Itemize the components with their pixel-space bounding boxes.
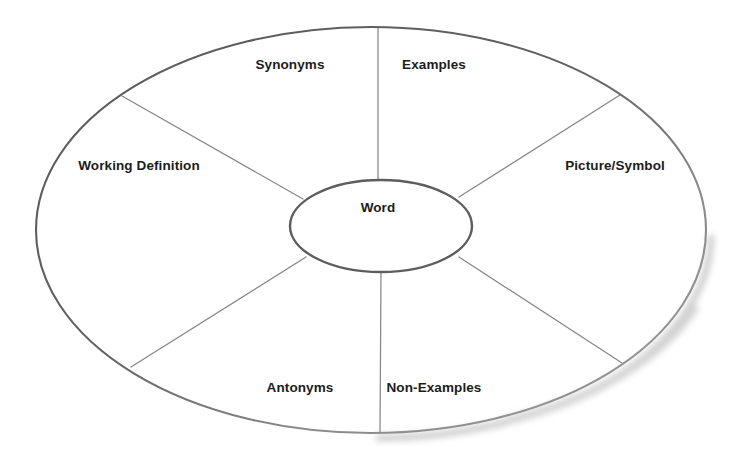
sector-label-non-examples: Non-Examples	[387, 381, 482, 395]
spoke-upper-right-line	[459, 95, 620, 197]
sector-label-antonyms: Antonyms	[267, 381, 334, 395]
wheel-graphic	[0, 0, 749, 456]
sector-label-examples: Examples	[402, 58, 466, 72]
inner-ellipse	[290, 180, 472, 272]
spoke-upper-left-line	[122, 96, 303, 199]
center-label-word: Word	[361, 201, 396, 215]
spoke-lower-left-line	[131, 257, 306, 367]
spoke-bottom-line	[380, 272, 381, 433]
sector-label-picture-symbol: Picture/Symbol	[565, 159, 665, 173]
sector-label-synonyms: Synonyms	[255, 58, 324, 72]
spoke-lower-right-line	[459, 257, 622, 363]
sector-label-working-definition: Working Definition	[78, 159, 200, 173]
word-wheel-diagram: Synonyms Examples Working Definition Pic…	[0, 0, 749, 456]
